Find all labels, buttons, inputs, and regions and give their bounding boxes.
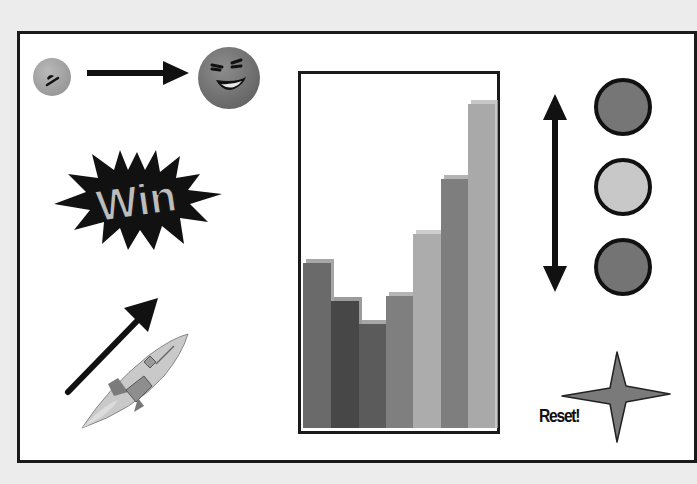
bar-2[interactable] (331, 301, 359, 428)
bar-5[interactable] (413, 234, 441, 428)
four-point-star-icon[interactable] (560, 350, 672, 444)
vertical-double-arrow-icon (540, 94, 570, 292)
bar-chart (298, 71, 500, 434)
right-arrow-icon (85, 60, 191, 86)
big-winking-smile-face-icon[interactable] (198, 47, 260, 109)
bar-1[interactable] (303, 263, 331, 428)
bar-3[interactable] (359, 324, 386, 428)
bar-6[interactable] (441, 179, 468, 428)
win-badge[interactable]: Win (48, 146, 226, 254)
small-neutral-face-icon[interactable] (33, 58, 71, 96)
light-top[interactable] (594, 78, 652, 136)
reset-button[interactable]: Reset! (539, 405, 579, 427)
light-middle[interactable] (594, 158, 652, 216)
light-bottom[interactable] (594, 238, 652, 296)
rocket-icon[interactable] (78, 328, 194, 432)
bar-4[interactable] (386, 296, 413, 428)
bar-7[interactable] (468, 104, 495, 428)
